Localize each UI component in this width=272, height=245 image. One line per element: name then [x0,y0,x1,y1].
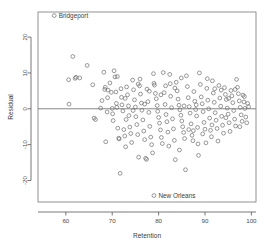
data-point [67,102,71,106]
data-point [211,91,215,95]
data-point [136,133,140,137]
data-point [218,96,222,100]
data-point [138,77,142,81]
data-point [198,83,202,87]
data-point [105,110,109,114]
data-point [116,126,120,130]
data-point [163,103,167,107]
data-point [173,86,177,90]
annotation-marker [152,194,156,198]
data-point [240,119,244,123]
data-point [164,84,168,88]
data-point [129,132,133,136]
data-point [205,86,209,90]
data-point [194,103,198,107]
data-point [215,127,219,131]
data-point [185,85,189,89]
data-point [154,97,158,101]
residual-scatter-chart: 60708090100 20100-10-20 Retention Residu… [0,0,272,245]
y-axis-title: Residual [7,94,14,120]
data-point [213,111,217,115]
data-point [124,145,128,149]
data-point [125,85,129,89]
data-point [122,128,126,132]
data-point [180,119,184,123]
data-point [161,71,165,75]
x-tick-label: 80 [155,217,162,224]
data-point [112,69,116,73]
data-point [197,154,201,158]
data-point [159,93,163,97]
data-point [238,125,242,129]
data-point [146,100,150,104]
data-point [182,131,186,135]
data-point [139,92,143,96]
data-point [237,99,241,103]
data-point [223,93,227,97]
data-point [181,125,185,129]
y-tick-label: -10 [21,140,28,150]
data-point [195,114,199,118]
data-point [157,116,161,120]
data-point [73,76,77,80]
data-point [104,140,108,144]
data-point [236,92,240,96]
data-point-layer [67,55,251,176]
data-point [184,168,188,172]
data-point [115,75,119,79]
annotation-marker [52,14,56,18]
data-point [106,96,110,100]
data-point [135,123,139,127]
data-point [239,113,243,117]
data-point [202,121,206,125]
data-point [132,88,136,92]
data-point [204,141,208,145]
data-point [74,75,78,79]
residual-plot-container: 60708090100 20100-10-20 Retention Residu… [0,0,272,245]
data-point [128,125,132,129]
data-point [213,87,217,91]
data-point [85,64,89,68]
data-point [174,80,178,84]
data-point [166,130,170,134]
data-point [172,138,176,142]
data-point [190,133,194,137]
data-point [194,108,198,112]
data-point [179,76,183,80]
data-point [164,113,168,117]
data-point [242,100,246,104]
data-point [187,128,191,132]
data-point [108,81,112,85]
data-point [173,158,177,162]
data-point [109,90,113,94]
data-point [196,142,200,146]
data-point [71,55,75,59]
data-point [210,123,214,127]
data-point [177,103,181,107]
data-point [214,118,218,122]
data-point [211,79,215,83]
data-point [145,87,149,91]
y-tick-label: 0 [21,107,28,111]
data-point [179,113,183,117]
data-point [159,136,163,140]
data-point [210,135,214,139]
data-point [143,138,147,142]
data-point [134,115,138,119]
data-point [78,76,82,80]
data-point [152,72,156,76]
data-point [245,121,249,125]
data-point [232,109,236,113]
data-point [183,137,187,141]
data-point [196,126,200,130]
data-point [219,104,223,108]
data-point [226,112,230,116]
data-point [225,106,229,110]
data-point [126,93,130,97]
data-point [209,128,213,132]
data-point [124,118,128,122]
data-point [189,122,193,126]
data-point [141,118,145,122]
data-point [233,117,237,121]
data-point [182,104,186,108]
